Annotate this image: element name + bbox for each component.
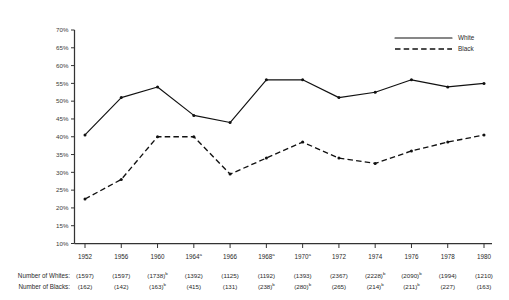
x-tick-label: 1964a (186, 252, 203, 260)
table-cell: (142) (114, 283, 128, 290)
data-point (483, 82, 486, 85)
data-point (446, 85, 449, 88)
y-tick-label: 25% (56, 186, 69, 193)
table-cell: (163) (477, 283, 491, 290)
data-point (337, 96, 340, 99)
data-point (265, 157, 268, 160)
y-tick-label: 50% (56, 97, 69, 104)
table-cell: (2090)b (401, 271, 422, 279)
table-cell: (1210) (475, 272, 493, 279)
x-tick-label: 1956 (114, 253, 129, 260)
table-cell: (1393) (294, 272, 312, 279)
chart-legend: WhiteBlack (395, 34, 475, 52)
table-cell: (265) (332, 283, 346, 290)
x-tick-label: 1972 (332, 253, 347, 260)
table-cell: (415) (187, 283, 201, 290)
table-cell: (162) (78, 283, 92, 290)
table-row-label: Number of Whites: (18, 272, 70, 279)
line-chart: 70%65%60%55%50%45%40%35%30%25%20%15%10% … (0, 0, 509, 300)
x-tick-label: 1966 (223, 253, 238, 260)
legend-label-white: White (458, 34, 475, 41)
y-tick-label: 30% (56, 169, 69, 176)
y-tick-label: 55% (56, 80, 69, 87)
data-point (410, 78, 413, 81)
y-tick-label: 40% (56, 133, 69, 140)
table-cell: (280)b (294, 282, 311, 290)
table-row-label: Number of Blacks: (19, 283, 71, 290)
chart-container: 70%65%60%55%50%45%40%35%30%25%20%15%10% … (0, 0, 509, 300)
sample-size-table: Number of Whites:(1597)(1597)(1738)b(139… (18, 271, 493, 290)
x-tick-label: 1978 (441, 253, 456, 260)
data-point (156, 85, 159, 88)
data-point (192, 114, 195, 117)
y-tick-label: 35% (56, 151, 69, 158)
table-cell: (163)b (149, 282, 166, 290)
table-cell: (1192) (258, 272, 275, 279)
x-tick-label: 1952 (78, 253, 93, 260)
x-axis: 1952195619601964a19661968a1970a197219741… (75, 244, 493, 260)
x-tick-label: 1960 (151, 253, 166, 260)
table-cell: (1738)b (147, 271, 168, 279)
data-point (483, 133, 486, 136)
data-point (301, 141, 304, 144)
table-cell: (238)b (258, 282, 275, 290)
data-point (120, 178, 123, 181)
table-cell: (227) (441, 283, 455, 290)
table-cell: (2228)b (365, 271, 386, 279)
table-cell: (2367) (330, 272, 348, 279)
y-tick-label: 20% (56, 204, 69, 211)
table-cell: (131) (223, 283, 237, 290)
table-cell: (1125) (221, 272, 238, 279)
data-point (120, 96, 123, 99)
data-point (410, 149, 413, 152)
data-point (229, 173, 232, 176)
table-cell: (1994) (439, 272, 457, 279)
x-tick-label: 1976 (404, 253, 419, 260)
data-point (337, 157, 340, 160)
series-line-black (85, 135, 484, 199)
legend-label-black: Black (458, 45, 474, 52)
table-cell: (211)b (403, 282, 420, 290)
data-point (84, 133, 87, 136)
data-point (374, 91, 377, 94)
series-line-white (85, 80, 484, 135)
table-cell: (1392) (185, 272, 203, 279)
table-cell: (1597) (76, 272, 94, 279)
data-point (84, 198, 87, 201)
data-point (156, 135, 159, 138)
table-cell: (214)b (367, 282, 384, 290)
y-tick-label: 60% (56, 62, 69, 69)
data-point (301, 78, 304, 81)
data-point (229, 121, 232, 124)
x-tick-label: 1980 (477, 253, 492, 260)
x-tick-label: 1974 (368, 253, 383, 260)
table-cell: (1597) (112, 272, 130, 279)
y-tick-label: 45% (56, 115, 69, 122)
y-axis: 70%65%60%55%50%45%40%35%30%25%20%15%10% (56, 26, 74, 247)
data-point (192, 135, 195, 138)
data-point (446, 141, 449, 144)
x-tick-label: 1968a (258, 252, 275, 260)
x-tick-label: 1970a (294, 252, 311, 260)
y-tick-label: 15% (56, 222, 69, 229)
data-series-group (84, 78, 486, 200)
y-tick-label: 70% (56, 26, 69, 33)
y-tick-label: 10% (56, 240, 69, 247)
data-point (265, 78, 268, 81)
data-point (374, 162, 377, 165)
y-tick-label: 65% (56, 44, 69, 51)
